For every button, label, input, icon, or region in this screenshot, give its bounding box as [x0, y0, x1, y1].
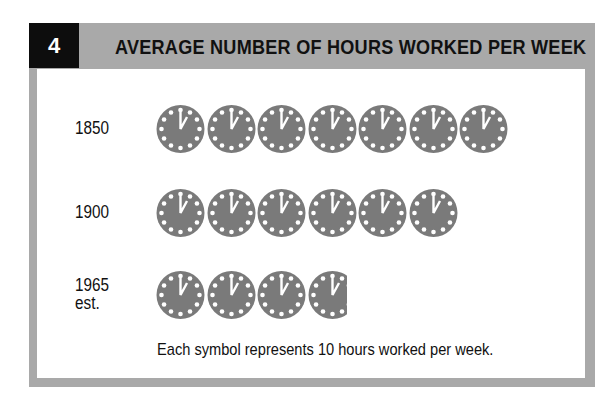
clock-icon — [308, 188, 357, 238]
clock-icon — [207, 188, 256, 238]
row-label: 1965 — [75, 275, 109, 295]
clock-icon — [207, 104, 256, 154]
clock-icon — [358, 104, 407, 154]
clock-icon — [257, 270, 306, 320]
clock-icon — [409, 104, 458, 154]
clock-icon — [156, 188, 205, 238]
row-label: 1900 — [75, 202, 109, 222]
clock-icon — [257, 188, 306, 238]
clock-icon — [308, 104, 357, 154]
clock-icon — [156, 270, 205, 320]
clock-icon — [409, 188, 458, 238]
figure-number: 4 — [29, 23, 79, 68]
clock-icon — [308, 270, 347, 320]
row-label-est: est. — [75, 293, 100, 313]
legend-note: Each symbol represents 10 hours worked p… — [157, 340, 493, 360]
clock-icon — [459, 104, 508, 154]
row-label: 1850 — [75, 118, 109, 138]
clock-icon — [156, 104, 205, 154]
clock-icon — [257, 104, 306, 154]
clock-icon — [207, 270, 256, 320]
chart-title: AVERAGE NUMBER OF HOURS WORKED PER WEEK — [115, 23, 586, 69]
clock-icon — [358, 188, 407, 238]
